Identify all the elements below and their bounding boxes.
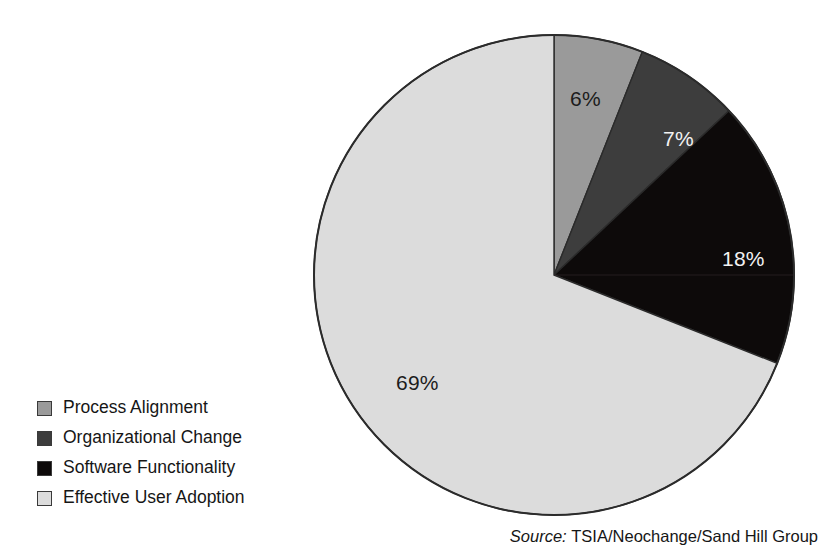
slice-value-label-organizational-change: 7% [663,128,694,149]
source-attribution: Source: TSIA/Neochange/Sand Hill Group [0,527,818,546]
legend-item-effective-user-adoption: Effective User Adoption [24,483,302,513]
legend-swatch-icon-software-functionality [37,461,52,476]
legend-label-organizational-change: Organizational Change [63,429,242,447]
slice-value-label-effective-user-adoption: 69% [396,372,439,393]
source-label: Source: [510,527,567,545]
legend-label-effective-user-adoption: Effective User Adoption [63,489,245,507]
legend-item-software-functionality: Software Functionality [24,453,302,483]
legend-swatch-icon-organizational-change [37,431,52,446]
legend-label-software-functionality: Software Functionality [63,459,235,477]
legend-swatch-icon-process-alignment [37,401,52,416]
chart-legend: Process Alignment Organizational Change … [24,386,302,518]
legend-swatch-icon-effective-user-adoption [37,491,52,506]
slice-value-label-process-alignment: 6% [570,88,601,109]
source-text: TSIA/Neochange/Sand Hill Group [571,527,818,545]
legend-item-process-alignment: Process Alignment [24,393,302,423]
legend-label-process-alignment: Process Alignment [63,399,208,417]
slice-value-label-software-functionality: 18% [722,248,765,269]
legend-item-organizational-change: Organizational Change [24,423,302,453]
pie-chart-figure: 6% 7% 18% 69% Process Alignment Organiza… [0,0,829,560]
